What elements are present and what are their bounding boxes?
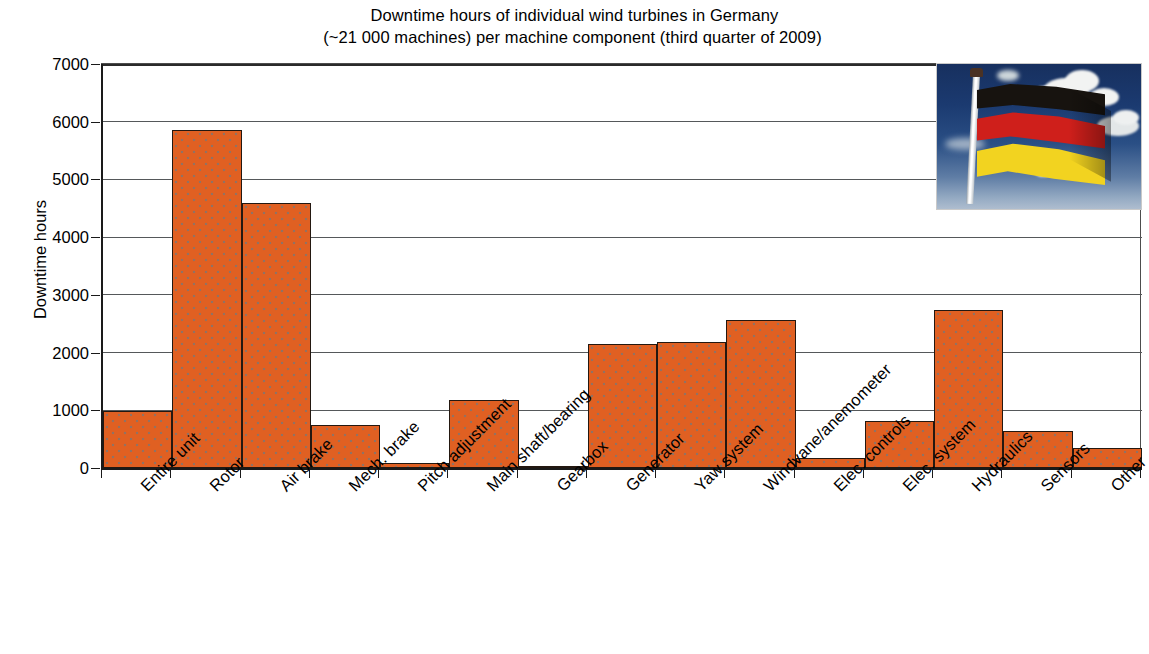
y-tick-label: 3000: [52, 285, 89, 304]
bar: [242, 203, 311, 468]
y-tick-mark: [91, 410, 100, 411]
y-tick-label: 1000: [52, 401, 89, 420]
y-tick-mark: [91, 179, 100, 180]
y-tick-mark: [91, 64, 100, 65]
y-axis-title: Downtime hours: [31, 140, 50, 380]
cloud-icon: [997, 70, 1019, 81]
y-tick-label: 4000: [52, 228, 89, 247]
y-tick-mark: [91, 237, 100, 238]
x-tick-mark: [101, 469, 102, 478]
y-tick-mark: [91, 468, 100, 469]
y-tick-mark: [91, 122, 100, 123]
bar: [172, 130, 241, 468]
chart-title: Downtime hours of individual wind turbin…: [0, 4, 1149, 48]
y-tick-mark: [91, 353, 100, 354]
y-tick-label: 2000: [52, 343, 89, 362]
y-tick-label: 5000: [52, 170, 89, 189]
flagpole-finial: [970, 68, 983, 77]
german-flag-photo: [936, 63, 1142, 210]
chart-title-line-1: Downtime hours of individual wind turbin…: [0, 4, 1149, 26]
cloud-icon: [1065, 70, 1099, 92]
y-tick-label: 6000: [52, 112, 89, 131]
y-tick-mark: [91, 295, 100, 296]
cloud-icon: [1113, 110, 1139, 125]
y-tick-label: 7000: [52, 55, 89, 74]
chart-title-line-2: (~21 000 machines) per machine component…: [0, 26, 1149, 48]
chart-figure: Downtime hours of individual wind turbin…: [0, 0, 1149, 654]
y-tick-label: 0: [80, 459, 89, 478]
